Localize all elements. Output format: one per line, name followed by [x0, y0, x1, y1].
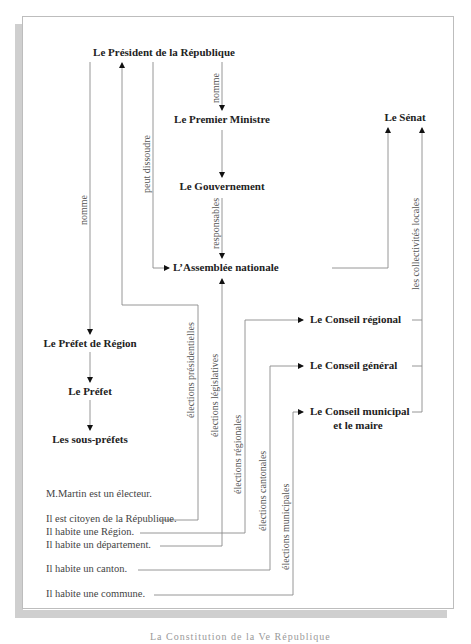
node-assemblee-nationale: L’Assemblée nationale — [173, 261, 279, 273]
node-gouvernement: Le Gouvernement — [179, 180, 264, 192]
voter-line-electeur: M.Martin est un électeur. — [46, 488, 152, 499]
node-premier-ministre: Le Premier Ministre — [174, 113, 270, 125]
node-conseil-municipal-maire: et le maire — [333, 419, 382, 431]
node-conseil-municipal: Le Conseil municipal — [310, 405, 410, 417]
label-regionales: élections régionales — [232, 415, 243, 494]
label-nomme-prefet: nomme — [78, 195, 89, 225]
node-prefet: Le Préfet — [68, 385, 112, 397]
edge-cantonales — [138, 366, 303, 570]
edge-regionales — [140, 320, 303, 533]
label-responsables: responsables — [210, 198, 221, 249]
label-presidentielles: élections présidentielles — [185, 322, 196, 418]
node-president: Le Président de la République — [93, 46, 235, 58]
voter-line-commune: Il habite une commune. — [46, 588, 145, 599]
label-peut-dissoudre: peut dissoudre — [141, 135, 152, 193]
label-collectivites-locales: les collectivités locales — [410, 198, 421, 290]
label-nomme-pm: nomme — [210, 73, 221, 103]
label-municipales: élections municipales — [280, 484, 291, 570]
node-conseil-regional: Le Conseil régional — [310, 313, 401, 325]
node-senat: Le Sénat — [384, 111, 425, 123]
node-conseil-general: Le Conseil général — [310, 359, 397, 371]
voter-line-departement: Il habite un département. — [46, 539, 151, 550]
voter-line-region: Il habite une Région. — [46, 526, 134, 537]
edge-presidentielles — [122, 63, 198, 520]
edge-assemblee-senat — [332, 128, 388, 268]
voter-line-canton: Il habite un canton. — [46, 563, 127, 574]
edge-peut-dissoudre — [153, 62, 169, 268]
node-sous-prefets: Les sous-préfets — [52, 433, 127, 445]
label-cantonales: élections cantonales — [257, 451, 268, 531]
label-legislatives: élections législatives — [209, 354, 220, 437]
node-prefet-region: Le Préfet de Région — [43, 337, 136, 349]
figure-caption: La Constitution de la Ve République — [150, 631, 331, 642]
voter-line-citoyen: Il est citoyen de la République. — [46, 513, 177, 524]
